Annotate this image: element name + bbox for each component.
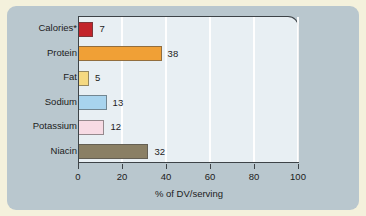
bar-chart: Calories*ProteinFatSodiumPotassiumNiacin… xyxy=(7,6,359,210)
x-axis-title: % of DV/serving xyxy=(78,188,300,199)
bar-value-label: 38 xyxy=(168,49,179,59)
bar-value-label: 7 xyxy=(99,24,104,34)
x-tick-80 xyxy=(254,164,255,169)
plot-area: 7385131232 xyxy=(78,16,299,163)
x-tick-60 xyxy=(210,164,211,169)
x-tick-label-60: 60 xyxy=(195,171,225,182)
category-label-potassium: Potassium xyxy=(7,121,77,131)
x-tick-label-20: 20 xyxy=(107,171,137,182)
x-tick-100 xyxy=(298,164,299,169)
x-tick-20 xyxy=(122,164,123,169)
bar-fat[interactable] xyxy=(78,71,89,86)
gridline-100 xyxy=(297,17,299,162)
figure-matte: Calories*ProteinFatSodiumPotassiumNiacin… xyxy=(0,0,366,216)
x-tick-40 xyxy=(166,164,167,169)
x-tick-label-100: 100 xyxy=(283,171,313,182)
y-axis-line xyxy=(78,16,79,164)
x-tick-0 xyxy=(78,164,79,169)
bar-row[interactable]: 5 xyxy=(78,71,298,86)
gridline-60 xyxy=(209,17,211,162)
bar-protein[interactable] xyxy=(78,46,162,61)
bar-sodium[interactable] xyxy=(78,95,107,110)
chart-panel: Calories*ProteinFatSodiumPotassiumNiacin… xyxy=(7,6,359,210)
bar-niacin[interactable] xyxy=(78,144,148,159)
bar-row[interactable]: 7 xyxy=(78,22,298,37)
category-label-calories: Calories* xyxy=(7,23,77,33)
gridline-40 xyxy=(165,17,167,162)
bar-value-label: 32 xyxy=(154,147,165,157)
bar-value-label: 12 xyxy=(110,122,121,132)
category-label-sodium: Sodium xyxy=(7,97,77,107)
bar-potassium[interactable] xyxy=(78,120,104,135)
bar-row[interactable]: 13 xyxy=(78,95,298,110)
category-axis-labels: Calories*ProteinFatSodiumPotassiumNiacin xyxy=(7,16,77,163)
x-tick-label-40: 40 xyxy=(151,171,181,182)
bar-value-label: 5 xyxy=(95,73,100,83)
bar-row[interactable]: 32 xyxy=(78,144,298,159)
gridline-20 xyxy=(121,17,123,162)
x-tick-label-0: 0 xyxy=(63,171,93,182)
x-tick-label-80: 80 xyxy=(239,171,269,182)
bar-calories[interactable] xyxy=(78,22,93,37)
bar-row[interactable]: 38 xyxy=(78,46,298,61)
bar-row[interactable]: 12 xyxy=(78,120,298,135)
bar-value-label: 13 xyxy=(113,98,124,108)
category-label-protein: Protein xyxy=(7,48,77,58)
category-label-niacin: Niacin xyxy=(7,146,77,156)
gridline-80 xyxy=(253,17,255,162)
category-label-fat: Fat xyxy=(7,72,77,82)
